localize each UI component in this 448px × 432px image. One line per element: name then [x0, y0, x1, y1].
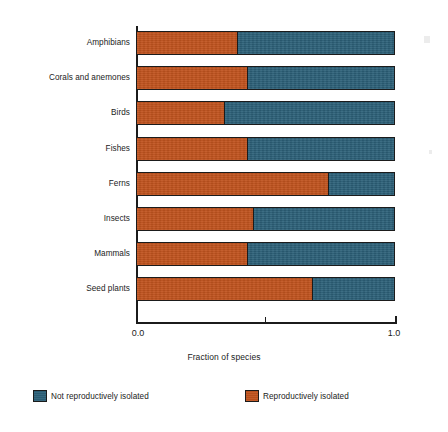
- stacked-bar: [136, 207, 395, 231]
- legend-label-not-isolated: Not reproductively isolated: [51, 392, 149, 401]
- bar-segment-reproductively-isolated: [137, 243, 248, 265]
- stacked-bar: [136, 277, 395, 301]
- stacked-bar: [136, 101, 395, 125]
- category-label: Fishes: [2, 137, 130, 161]
- plot-area: AmphibiansCorals and anemonesBirdsFishes…: [136, 26, 397, 322]
- bar-segment-not-reproductively-isolated: [248, 138, 394, 160]
- scan-artifact: [429, 150, 432, 154]
- stacked-bar: [136, 66, 395, 90]
- bar-row: Mammals: [136, 242, 395, 266]
- category-label: Amphibians: [2, 31, 130, 55]
- stacked-bar: [136, 31, 395, 55]
- category-label: Insects: [2, 207, 130, 231]
- stacked-bar: [136, 242, 395, 266]
- category-label: Mammals: [2, 242, 130, 266]
- legend-item-reproductively-isolated[interactable]: Reproductively isolated: [245, 389, 349, 403]
- legend-item-not-reproductively-isolated[interactable]: Not reproductively isolated: [33, 389, 149, 403]
- chart-legend: Not reproductively isolated Reproductive…: [0, 389, 448, 411]
- bar-segment-reproductively-isolated: [137, 138, 248, 160]
- x-tick-max: [395, 316, 397, 323]
- bar-row: Insects: [136, 207, 395, 231]
- bar-row: Corals and anemones: [136, 66, 395, 90]
- x-tick-mid: [265, 317, 266, 323]
- x-ticklabel-max: 1.0: [388, 328, 401, 338]
- bar-segment-reproductively-isolated: [137, 173, 329, 195]
- stacked-bar: [136, 137, 395, 161]
- bar-row: Amphibians: [136, 31, 395, 55]
- scan-artifact: [424, 36, 430, 43]
- bar-segment-reproductively-isolated: [137, 102, 225, 124]
- category-label: Birds: [2, 101, 130, 125]
- bar-segment-not-reproductively-isolated: [238, 32, 394, 54]
- category-label: Corals and anemones: [2, 66, 130, 90]
- bar-row: Birds: [136, 101, 395, 125]
- chart-figure: AmphibiansCorals and anemonesBirdsFishes…: [0, 0, 448, 432]
- bar-segment-reproductively-isolated: [137, 278, 313, 300]
- bar-segment-reproductively-isolated: [137, 32, 238, 54]
- legend-swatch-icon-not-isolated: [33, 390, 47, 402]
- bar-segment-not-reproductively-isolated: [248, 243, 394, 265]
- bar-segment-not-reproductively-isolated: [248, 67, 394, 89]
- bar-row: Seed plants: [136, 277, 395, 301]
- legend-swatch-icon-isolated: [245, 390, 259, 402]
- x-axis-line: [136, 322, 397, 324]
- bar-segment-not-reproductively-isolated: [254, 208, 394, 230]
- x-ticklabel-min: 0.0: [132, 328, 145, 338]
- bar-segment-not-reproductively-isolated: [329, 173, 394, 195]
- bar-row: Ferns: [136, 172, 395, 196]
- x-axis-title: Fraction of species: [0, 352, 448, 362]
- bar-segment-reproductively-isolated: [137, 208, 254, 230]
- x-axis: 0.0 1.0: [136, 322, 397, 323]
- legend-label-isolated: Reproductively isolated: [263, 392, 349, 401]
- bar-segment-reproductively-isolated: [137, 67, 248, 89]
- bar-segment-not-reproductively-isolated: [313, 278, 394, 300]
- bar-row: Fishes: [136, 137, 395, 161]
- x-tick-min: [136, 316, 138, 323]
- category-label: Ferns: [2, 172, 130, 196]
- bar-segment-not-reproductively-isolated: [225, 102, 394, 124]
- category-label: Seed plants: [2, 277, 130, 301]
- stacked-bar: [136, 172, 395, 196]
